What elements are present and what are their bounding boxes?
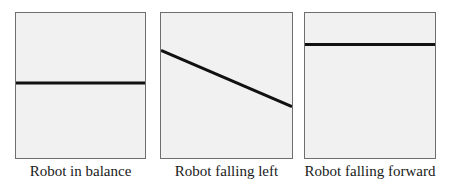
panel-robot-falling-forward: [304, 12, 436, 159]
panel-robot-in-balance: [15, 12, 146, 159]
caption-robot-falling-forward: Robot falling forward: [297, 163, 443, 180]
caption-robot-falling-left: Robot falling left: [160, 163, 293, 180]
horizon-line-level: [16, 13, 145, 158]
horizon-line-raised: [305, 13, 435, 158]
horizon-line-tilted: [161, 13, 292, 158]
caption-robot-in-balance: Robot in balance: [15, 163, 146, 180]
panel-robot-falling-left: [160, 12, 293, 159]
